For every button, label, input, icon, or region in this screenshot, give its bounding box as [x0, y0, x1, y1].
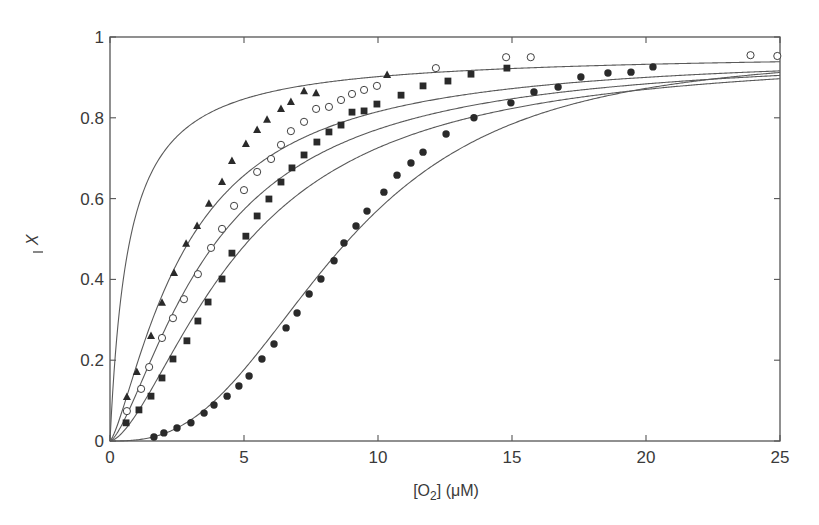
open-circle-marker [348, 90, 355, 97]
triangle-marker [253, 125, 261, 133]
square-marker [159, 375, 166, 382]
square-marker [289, 164, 296, 171]
series-squares [123, 65, 511, 427]
filled-circle-marker [270, 340, 277, 347]
x-tick-label: 10 [369, 448, 388, 467]
filled-circle-marker [282, 324, 289, 331]
curve-open-circles [110, 75, 780, 441]
square-marker [242, 233, 249, 240]
curve-triangles [110, 71, 780, 441]
square-marker [229, 250, 236, 257]
open-circle-marker [158, 334, 165, 341]
open-circle-marker [180, 296, 187, 303]
y-tick-label: 0.8 [80, 109, 104, 128]
square-marker [278, 179, 285, 186]
open-circle-marker [360, 86, 367, 93]
filled-circle-marker [393, 171, 400, 178]
square-marker [136, 406, 143, 413]
triangle-marker [287, 98, 295, 106]
triangle-marker [228, 157, 236, 165]
square-marker [254, 213, 261, 220]
filled-circle-marker [173, 424, 180, 431]
triangle-marker [123, 392, 131, 400]
filled-circle-marker [330, 257, 337, 264]
open-circle-marker [747, 52, 754, 59]
open-circle-marker [432, 65, 439, 72]
square-marker [374, 101, 381, 108]
open-circle-marker [240, 187, 247, 194]
open-circle-marker [123, 408, 130, 415]
filled-circle-marker [352, 222, 359, 229]
filled-circle-marker [317, 275, 324, 282]
square-marker [205, 299, 212, 306]
y-tick-label: 1 [95, 28, 104, 47]
filled-circle-marker [160, 429, 167, 436]
square-marker [504, 65, 511, 72]
open-circle-marker [218, 225, 225, 232]
x-tick-label: 5 [239, 448, 248, 467]
square-marker [266, 196, 273, 203]
open-circle-marker [267, 155, 274, 162]
open-circle-marker [230, 202, 237, 209]
filled-circle-marker [554, 83, 561, 90]
x-tick-label: 15 [503, 448, 522, 467]
square-marker [170, 356, 177, 363]
square-marker [398, 92, 405, 99]
open-circle-marker [254, 168, 261, 175]
square-marker [338, 122, 345, 129]
filled-circle-marker [340, 239, 347, 246]
square-marker [420, 82, 427, 89]
filled-circle-marker [150, 433, 157, 440]
square-marker [445, 78, 452, 85]
square-marker [219, 276, 226, 283]
open-circle-marker [146, 363, 153, 370]
open-circle-marker [277, 141, 284, 148]
open-circle-marker [774, 52, 781, 59]
x-axis-label: [O2] (μM) [413, 482, 479, 503]
filled-circle-marker [223, 392, 230, 399]
filled-circle-marker [530, 88, 537, 95]
filled-circle-marker [507, 99, 514, 106]
open-circle-marker [207, 244, 214, 251]
filled-circle-marker [210, 401, 217, 408]
filled-circle-marker [649, 63, 656, 70]
square-marker [468, 71, 475, 78]
filled-circle-marker [577, 73, 584, 80]
square-marker [123, 419, 130, 426]
x-axis-ticks: 0510152025 [105, 37, 789, 467]
triangle-marker [242, 140, 250, 148]
triangle-marker [277, 104, 285, 112]
square-marker [195, 318, 202, 325]
filled-circle-marker [363, 207, 370, 214]
y-tick-label: 0 [95, 432, 104, 451]
open-circle-marker [287, 128, 294, 135]
triangle-marker [205, 199, 213, 207]
open-circle-marker [300, 118, 307, 125]
y-tick-label: 0.6 [80, 190, 104, 209]
triangle-marker [170, 268, 178, 276]
square-marker [148, 393, 155, 400]
triangle-marker [263, 115, 271, 123]
x-tick-label: 25 [771, 448, 790, 467]
square-marker [361, 108, 368, 115]
square-marker [326, 129, 333, 136]
filled-circle-marker [293, 309, 300, 316]
series-filled-circles [150, 63, 656, 440]
open-circle-marker [503, 54, 510, 61]
square-marker [313, 139, 320, 146]
y-tick-label: 0.4 [80, 270, 104, 289]
open-circle-marker [337, 96, 344, 103]
filled-circle-marker [187, 419, 194, 426]
filled-circle-marker [442, 130, 449, 137]
square-marker [184, 337, 191, 344]
triangle-marker [383, 70, 391, 78]
series-open-circles [123, 52, 781, 415]
filled-circle-marker [235, 382, 242, 389]
open-circle-marker [137, 385, 144, 392]
filled-circle-marker [305, 290, 312, 297]
filled-circle-marker [604, 69, 611, 76]
svg-text:X: X [24, 233, 41, 246]
filled-circle-marker [245, 372, 252, 379]
open-circle-marker [527, 54, 534, 61]
filled-circle-marker [419, 148, 426, 155]
